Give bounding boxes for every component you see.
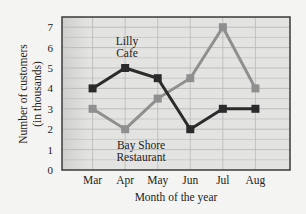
y-tick-label: 1 <box>48 144 54 156</box>
y-tick-label: 0 <box>48 164 54 176</box>
x-axis-label: Month of the year <box>135 191 218 204</box>
x-tick-label: Apr <box>116 174 134 187</box>
data-point-marker <box>186 125 194 133</box>
y-axis-label-line1: Number of customers <box>17 44 29 144</box>
series-label-lilly-line2: Cafe <box>116 47 138 59</box>
y-tick-label: 3 <box>48 103 54 115</box>
x-tick-label: Jun <box>182 174 198 186</box>
y-tick-label: 7 <box>48 21 54 33</box>
data-point-marker <box>186 74 194 82</box>
x-tick-label: Mar <box>83 174 102 186</box>
line-chart: 01234567 MarAprMayJunJulAug Lilly Cafe B… <box>0 0 306 214</box>
data-point-marker <box>121 125 129 133</box>
x-tick-label: Aug <box>246 174 266 187</box>
y-axis-label-line2: (in thousands) <box>31 61 44 127</box>
x-tick-label: May <box>147 174 168 187</box>
data-point-marker <box>154 95 162 103</box>
data-point-marker <box>219 23 227 31</box>
data-point-marker <box>219 105 227 113</box>
y-tick-label: 5 <box>48 62 54 74</box>
y-tick-label: 2 <box>48 123 54 135</box>
y-axis-ticks: 01234567 <box>48 21 54 176</box>
data-point-marker <box>89 84 97 92</box>
data-point-marker <box>154 74 162 82</box>
series-label-bayshore-line2: Restaurant <box>116 151 166 163</box>
y-tick-label: 4 <box>48 82 54 94</box>
data-point-marker <box>89 105 97 113</box>
data-point-marker <box>121 64 129 72</box>
y-tick-label: 6 <box>48 42 54 54</box>
x-axis-ticks: MarAprMayJunJulAug <box>83 174 266 187</box>
data-point-marker <box>251 105 259 113</box>
data-point-marker <box>251 84 259 92</box>
x-tick-label: Jul <box>216 174 229 186</box>
